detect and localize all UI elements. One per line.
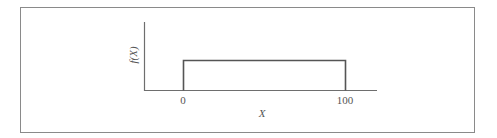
x-axis-label: X [258, 107, 267, 119]
x-tick-100: 100 [337, 94, 354, 106]
density-line [184, 61, 346, 91]
y-axis-label: f(X) [127, 46, 140, 63]
uniform-distribution-chart: 0 100 X f(X) [0, 0, 497, 138]
x-tick-0: 0 [180, 94, 186, 106]
